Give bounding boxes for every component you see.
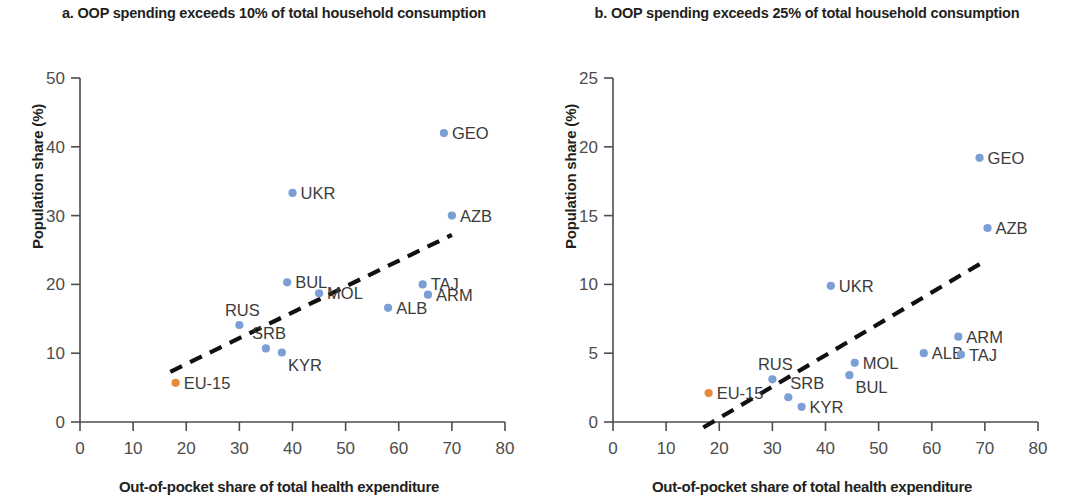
data-point: [845, 371, 853, 379]
data-point-label: ARM: [436, 286, 473, 304]
data-point-label: MOL: [327, 284, 363, 302]
y-tick-label: 10: [579, 275, 598, 294]
data-point-label: RUS: [225, 301, 260, 319]
data-point-label: EU-15: [184, 374, 231, 392]
data-point: [424, 291, 432, 299]
x-tick-label: 0: [608, 439, 617, 458]
x-tick-label: 70: [975, 439, 994, 458]
data-point: [283, 278, 291, 286]
data-point: [957, 350, 965, 358]
data-point: [768, 375, 776, 383]
data-point: [920, 349, 928, 357]
data-point-label: UKR: [839, 277, 874, 295]
y-tick-label: 0: [56, 413, 65, 432]
panel-b-y-axis-label: Population share (%): [562, 62, 579, 292]
data-point: [448, 212, 456, 220]
panel-a-y-axis-label: Population share (%): [29, 62, 46, 292]
data-point: [954, 333, 962, 341]
data-point-label: BUL: [855, 378, 887, 396]
y-tick-label: 0: [589, 413, 598, 432]
x-tick-label: 50: [336, 439, 355, 458]
x-tick-label: 0: [75, 439, 84, 458]
y-tick-label: 50: [46, 69, 65, 88]
y-tick-label: 25: [579, 69, 598, 88]
data-point-label: KYR: [288, 356, 322, 374]
data-point: [705, 389, 713, 397]
x-tick-label: 30: [763, 439, 782, 458]
data-point: [288, 189, 296, 197]
data-point-label: KYR: [810, 398, 844, 416]
x-tick-label: 10: [124, 439, 143, 458]
y-tick-label: 40: [46, 138, 65, 157]
data-point-label: BUL: [295, 273, 327, 291]
data-point: [278, 348, 286, 356]
panel-a: a. OOP spending exceeds 10% of total hou…: [0, 0, 533, 499]
data-point-label: AZB: [460, 207, 492, 225]
data-point: [784, 393, 792, 401]
x-tick-label: 60: [922, 439, 941, 458]
data-point: [827, 282, 835, 290]
y-tick-label: 5: [589, 344, 598, 363]
data-point-label: UKR: [301, 184, 336, 202]
x-tick-label: 50: [869, 439, 888, 458]
x-tick-label: 20: [710, 439, 729, 458]
data-point-label: SRB: [252, 324, 286, 342]
panel-a-x-axis-label: Out-of-pocket share of total health expe…: [44, 478, 514, 495]
x-tick-label: 30: [230, 439, 249, 458]
panel-b: b. OOP spending exceeds 25% of total hou…: [533, 0, 1066, 499]
panel-a-plot: 0102030405001020304050607080EU-15RUSSRBK…: [0, 0, 533, 499]
data-point: [983, 224, 991, 232]
data-point-label: GEO: [988, 149, 1025, 167]
data-point: [797, 403, 805, 411]
panel-b-plot: 051015202501020304050607080EU-15RUSSRBKY…: [533, 0, 1066, 499]
y-tick-label: 15: [579, 207, 598, 226]
data-point: [235, 321, 243, 329]
data-point-label: ARM: [966, 328, 1003, 346]
data-point-label: AZB: [996, 219, 1028, 237]
panel-b-x-axis-label: Out-of-pocket share of total health expe…: [577, 478, 1047, 495]
data-point: [975, 154, 983, 162]
data-point-label: MOL: [863, 354, 899, 372]
y-tick-label: 20: [579, 138, 598, 157]
data-point-label: EU-15: [717, 384, 764, 402]
data-point-label: RUS: [758, 355, 793, 373]
x-tick-label: 10: [657, 439, 676, 458]
data-point: [384, 304, 392, 312]
y-tick-label: 20: [46, 275, 65, 294]
x-tick-label: 40: [283, 439, 302, 458]
data-point: [440, 129, 448, 137]
data-point-label: SRB: [790, 374, 824, 392]
x-tick-label: 40: [816, 439, 835, 458]
y-tick-label: 10: [46, 344, 65, 363]
data-point: [419, 280, 427, 288]
x-tick-label: 80: [496, 439, 515, 458]
y-tick-label: 30: [46, 207, 65, 226]
data-point: [172, 379, 180, 387]
data-point: [851, 359, 859, 367]
x-tick-label: 70: [442, 439, 461, 458]
data-point-label: ALB: [396, 299, 427, 317]
data-point-label: TAJ: [969, 346, 997, 364]
data-point: [315, 289, 323, 297]
data-point: [262, 344, 270, 352]
two-panel-scatter-figure: a. OOP spending exceeds 10% of total hou…: [0, 0, 1066, 499]
x-tick-label: 80: [1029, 439, 1048, 458]
data-point-label: GEO: [452, 124, 489, 142]
x-tick-label: 20: [177, 439, 196, 458]
x-tick-label: 60: [389, 439, 408, 458]
